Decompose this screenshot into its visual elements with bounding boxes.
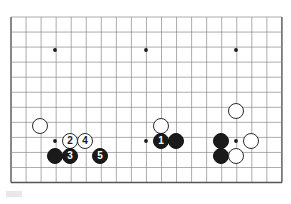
move-stone-1[interactable]: 1: [153, 133, 169, 149]
stone-white-left-corner[interactable]: [32, 118, 48, 134]
go-diagram: 24351: [0, 0, 291, 204]
move-number-label: 4: [82, 136, 88, 146]
star-point: [144, 48, 148, 52]
move-stone-4[interactable]: 4: [77, 133, 93, 149]
stone-white-right-upper[interactable]: [228, 103, 244, 119]
stone-white-right-lower[interactable]: [228, 148, 244, 164]
stone-white-right-mid[interactable]: [243, 133, 259, 149]
move-number-label: 2: [67, 136, 73, 146]
stone-black-right-lower[interactable]: [213, 148, 229, 164]
go-board-grid: [0, 0, 291, 204]
stone-white-center[interactable]: [153, 118, 169, 134]
move-number-label: 1: [158, 136, 164, 146]
move-stone-5[interactable]: 5: [92, 148, 108, 164]
move-number-label: 5: [97, 151, 103, 161]
star-point: [234, 139, 238, 143]
star-point: [53, 48, 57, 52]
caption-artifact: [6, 191, 22, 197]
star-point: [234, 48, 238, 52]
stone-black-left-lower[interactable]: [47, 148, 63, 164]
move-number-label: 3: [67, 151, 73, 161]
move-stone-3[interactable]: 3: [62, 148, 78, 164]
star-point: [53, 139, 57, 143]
stone-black-center-right[interactable]: [168, 133, 184, 149]
move-stone-2[interactable]: 2: [62, 133, 78, 149]
star-point: [144, 139, 148, 143]
stone-black-right-upper[interactable]: [213, 133, 229, 149]
